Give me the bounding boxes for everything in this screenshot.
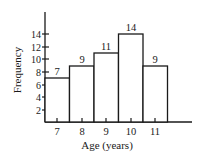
y-tick-label: 10 bbox=[31, 54, 41, 65]
y-tick-label: 12 bbox=[31, 42, 41, 53]
bar-7 bbox=[45, 78, 70, 122]
x-tick-label: 11 bbox=[150, 126, 160, 137]
data-label: 14 bbox=[126, 22, 137, 33]
x-axis-label: Age (years) bbox=[81, 139, 133, 152]
bar-9 bbox=[94, 53, 119, 122]
histogram-chart: 2 4 6 8 10 12 14 Frequency 7 9 11 14 9 7… bbox=[0, 0, 205, 160]
y-tick-label: 8 bbox=[36, 67, 41, 78]
bar-8 bbox=[70, 66, 95, 122]
x-tick-label: 7 bbox=[54, 126, 59, 137]
data-label: 9 bbox=[152, 54, 157, 65]
data-label: 11 bbox=[101, 41, 111, 52]
y-tick-labels: 2 4 6 8 10 12 14 bbox=[31, 29, 41, 116]
bar-11 bbox=[143, 66, 168, 122]
x-tick-label: 9 bbox=[103, 126, 108, 137]
y-tick-label: 2 bbox=[36, 105, 41, 116]
x-tick-labels: 7 8 9 10 11 bbox=[54, 126, 160, 137]
x-tick-label: 10 bbox=[126, 126, 137, 137]
y-tick-label: 14 bbox=[31, 29, 41, 40]
y-tick-label: 4 bbox=[36, 92, 41, 103]
y-axis-label: Frequency bbox=[11, 46, 23, 93]
data-label: 9 bbox=[79, 54, 84, 65]
y-tick-label: 6 bbox=[36, 80, 41, 91]
x-tick-label: 8 bbox=[79, 126, 84, 137]
bar-10 bbox=[119, 34, 144, 122]
data-label: 7 bbox=[54, 66, 59, 77]
